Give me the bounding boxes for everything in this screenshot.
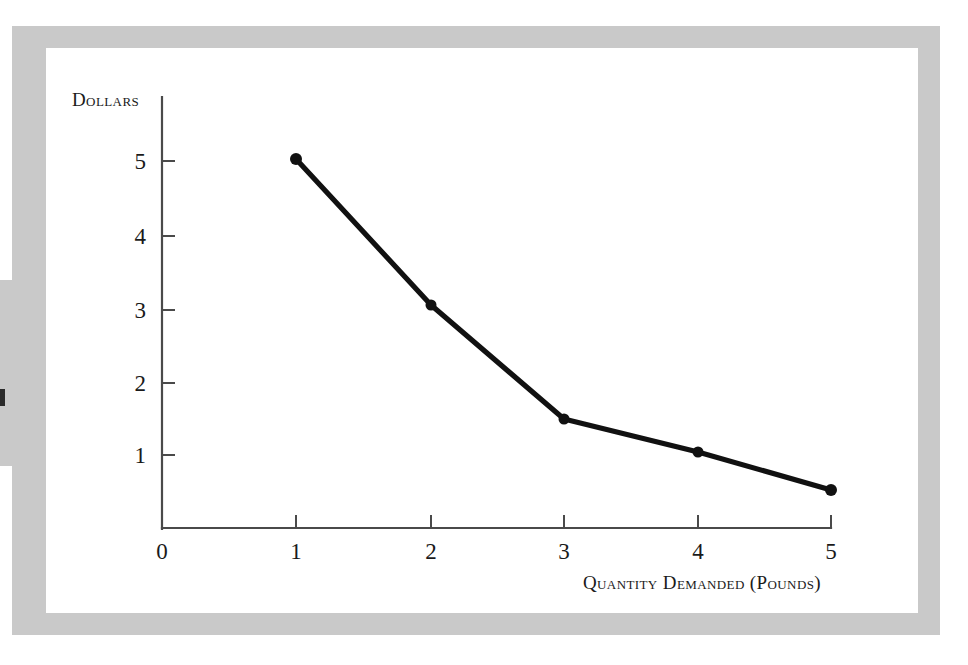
x-tick-label-4: 4 [692,539,704,564]
x-axis-title: Quantity Demanded (Pounds) [583,572,821,594]
page-margin-glyph-fragment [0,389,5,406]
data-point-1 [290,153,302,165]
y-tick-label-1: 1 [135,443,147,468]
x-tick-label-2: 2 [425,539,437,564]
demand-curve-line [296,159,831,490]
x-tick-label-3: 3 [558,539,570,564]
y-tick-label-2: 2 [135,371,147,396]
data-point-4 [693,447,704,458]
data-point-5 [825,484,837,496]
y-axis-title: Dollars [72,89,139,110]
y-tick-label-3: 3 [135,298,147,323]
x-tick-label-1: 1 [290,539,302,564]
data-point-3 [559,414,570,425]
data-point-2 [426,300,437,311]
y-tick-label-5: 5 [135,149,147,174]
y-tick-label-4: 4 [135,224,147,249]
demand-curve-chart: 5 4 3 2 1 0 1 2 3 4 5 Dollars Quantity D… [12,26,940,635]
x-tick-label-0: 0 [156,539,168,564]
x-tick-label-5: 5 [825,539,837,564]
